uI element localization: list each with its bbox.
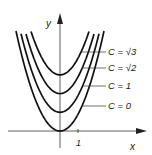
curve-label-c0: C = 0: [108, 100, 132, 111]
curve-label-c-sqrt2: C = √2: [108, 62, 137, 73]
y-axis-label: y: [45, 18, 52, 29]
x-axis-label: x: [129, 141, 136, 152]
x-axis-arrow-icon: [136, 128, 147, 134]
y-axis-arrow-icon: [57, 13, 63, 24]
family-of-curves-diagram: y 1 x C = 0 C = 1 C = √2 C = √3: [0, 0, 152, 155]
curve-label-c1: C = 1: [108, 80, 131, 91]
curve-label-c-sqrt3: C = √3: [108, 46, 137, 57]
tick-label: 1: [76, 138, 81, 148]
